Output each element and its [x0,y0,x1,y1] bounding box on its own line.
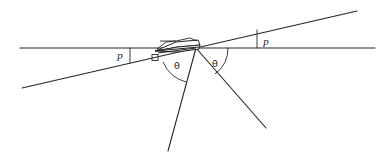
diagram-canvas: p p θ θ [0,0,378,157]
angle-p-right-label: p [262,35,269,47]
angle-theta-left-label: θ [174,60,180,71]
geometry-diagram: p p θ θ [0,0,378,157]
angle-p-left-label: p [116,49,123,61]
diagram-background [0,0,378,157]
angle-theta-right-label: θ [212,58,218,69]
